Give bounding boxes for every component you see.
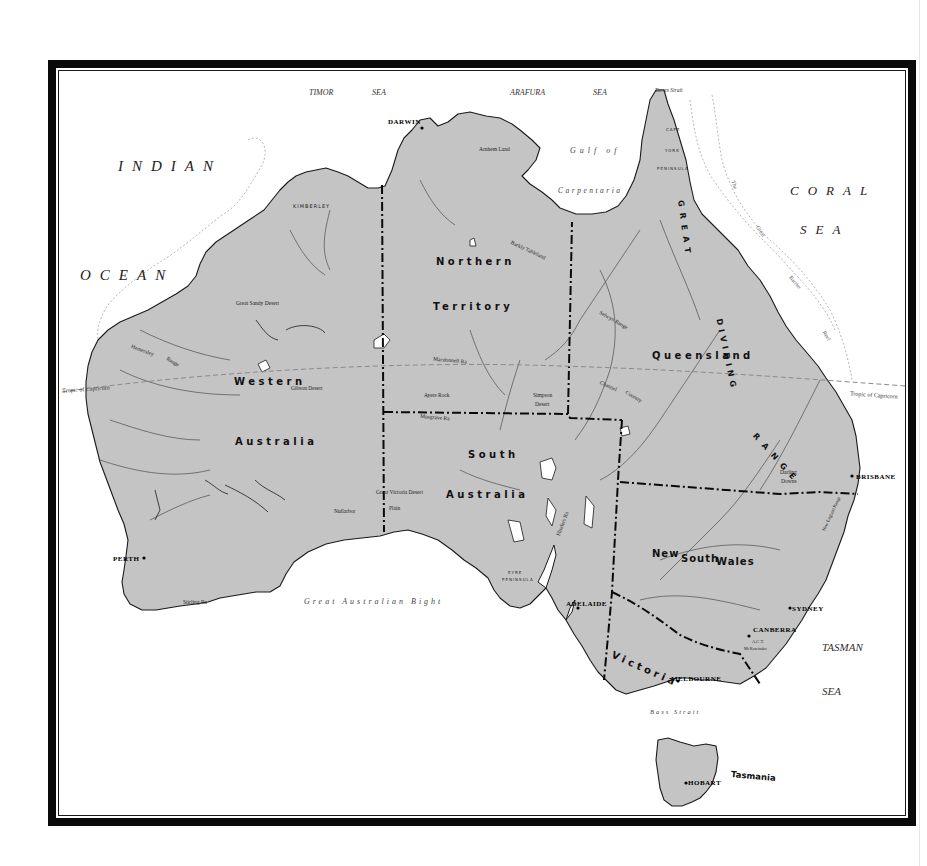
gulf-label-carpentaria: Carpentaria	[558, 187, 623, 195]
region-label-peninsula: PENINSULA	[657, 167, 689, 171]
sea-label-tasman: TASMAN	[822, 642, 863, 653]
sea-label-indian: INDIAN	[118, 159, 222, 174]
region-label-arnhem-land: Arnhem Land	[479, 147, 510, 153]
state-label-queensland: Queensland	[652, 351, 754, 361]
sea-label-timor: TIMOR	[309, 89, 333, 97]
state-label-territory: Territory	[433, 302, 513, 312]
city-label-perth: PERTH	[113, 556, 139, 563]
region-label-plain: Plain	[389, 506, 400, 512]
state-label-western-australia: Australia	[235, 437, 317, 447]
strait-label-torres: Torres Strait	[655, 88, 683, 94]
state-label-south: South	[468, 450, 519, 460]
sea-label-tasman-sea: SEA	[822, 686, 841, 697]
tasmania-island	[656, 738, 718, 806]
city-label-adelaide: ADELAIDE	[566, 601, 607, 608]
region-label-eyre: EYRE	[508, 571, 522, 575]
bight-label: Great Australian Bight	[304, 598, 443, 606]
landmark-label-kosciusko: Mt Kosciusko	[744, 647, 767, 651]
region-label-simpson-desert: Desert	[535, 402, 549, 408]
sea-label-arafura: ARAFURA	[510, 89, 545, 97]
sea-label-arafura-sea: SEA	[593, 89, 607, 97]
landmark-label-ayers-rock: Ayers Rock	[424, 393, 450, 399]
region-label-cape: CAPE	[666, 128, 680, 132]
state-label-nsw-south: South	[681, 554, 719, 564]
city-label-canberra: CANBERRA	[753, 627, 797, 634]
region-label-simpson: Simpson	[533, 393, 552, 399]
region-label-york: YORK	[665, 149, 680, 153]
region-label-stirling-ra: Stirling Ra	[183, 600, 207, 606]
strait-label-bass: Bass Strait	[650, 709, 700, 716]
sea-label-coral-sea: SEA	[800, 223, 849, 236]
city-label-hobart: HOBART	[688, 780, 721, 787]
city-label-darwin: DARWIN	[388, 119, 421, 126]
state-label-nsw-wales: Wales	[716, 557, 755, 567]
region-label-kimberley: KIMBERLEY	[293, 204, 330, 209]
region-label-great-victoria-desert: Great Victoria Desert	[376, 490, 423, 496]
territory-label-act: A.C.T.	[752, 640, 764, 645]
city-label-sydney: SYDNEY	[792, 606, 824, 613]
gulf-label-gulf-of: Gulf of	[570, 147, 620, 155]
state-label-northern: Northern	[436, 257, 515, 267]
region-label-nullarbor: Nullarbor	[334, 509, 355, 515]
state-label-south-australia: Australia	[446, 490, 528, 500]
australia-map	[0, 0, 927, 866]
sea-label-ocean: OCEAN	[80, 268, 174, 283]
region-label-gibson-desert: Gibson Desert	[291, 386, 323, 392]
state-label-nsw-new: New	[652, 549, 679, 559]
city-label-brisbane: BRISBANE	[856, 474, 896, 481]
sea-label-coral: CORAL	[790, 184, 876, 197]
sea-label-timor-sea: SEA	[372, 89, 386, 97]
region-label-great-sandy-desert: Great Sandy Desert	[236, 301, 279, 307]
city-label-melbourne: MELBOURNE	[671, 676, 721, 683]
region-label-eyre-peninsula: PENINSULA	[502, 578, 534, 582]
